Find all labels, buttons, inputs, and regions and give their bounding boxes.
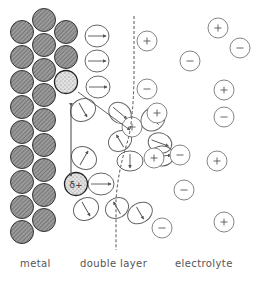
- metal-atom: [11, 46, 34, 69]
- water-dipole: [85, 50, 109, 72]
- metal-label: metal: [20, 258, 51, 269]
- dipole-arrow-icon: [113, 107, 127, 119]
- anion: [174, 180, 194, 200]
- metal-atom: [33, 34, 56, 57]
- metal-atom: [55, 21, 78, 44]
- anion: [170, 145, 190, 165]
- electric-double-layer-diagram: δ+: [0, 0, 264, 288]
- electrolyte-label: electrolyte: [175, 258, 233, 269]
- adsorbed-ion: [55, 71, 78, 94]
- metal-atom: [33, 84, 56, 107]
- cation: [122, 117, 142, 137]
- cation: [214, 80, 234, 100]
- dipole-arrow-icon: [80, 151, 88, 165]
- double-layer-label: double layer: [80, 258, 147, 269]
- water-dipole: [88, 173, 114, 195]
- metal-atom: [11, 146, 34, 169]
- metal-atom: [33, 209, 56, 232]
- cation: [207, 151, 227, 171]
- cation: [144, 148, 164, 168]
- cation: [214, 212, 234, 232]
- anion: [152, 218, 172, 238]
- dipole-arrow-icon: [114, 202, 121, 214]
- metal-atom: [11, 71, 34, 94]
- metal-atom: [11, 21, 34, 44]
- electrolyte-ions: [122, 18, 250, 238]
- anion: [230, 38, 250, 58]
- metal-atom: [33, 9, 56, 32]
- adsorbed-ion: δ+: [65, 173, 88, 196]
- metal-atom: [33, 159, 56, 182]
- water-dipole: [85, 25, 109, 47]
- metal-atom: [33, 109, 56, 132]
- water-dipole: [69, 193, 103, 225]
- cation: [147, 103, 167, 123]
- metal-atom: [11, 121, 34, 144]
- metal-atom: [11, 196, 34, 219]
- water-dipole: [86, 76, 110, 98]
- water-dipole: [67, 142, 101, 174]
- anion: [180, 51, 200, 71]
- anion: [214, 107, 234, 127]
- water-dipole: [124, 198, 157, 228]
- metal-atom: [11, 171, 34, 194]
- metal-atoms: [11, 9, 78, 244]
- cation: [208, 18, 228, 38]
- dipole-arrow-icon: [79, 103, 87, 117]
- metal-atom: [33, 134, 56, 157]
- svg-text:δ+: δ+: [69, 180, 82, 190]
- dipole-arrow-icon: [117, 135, 124, 147]
- metal-atom: [11, 96, 34, 119]
- metal-atom: [33, 184, 56, 207]
- field-arrow-icon: [78, 92, 130, 130]
- metal-atom: [33, 59, 56, 82]
- metal-atom: [11, 221, 34, 244]
- water-dipole: [117, 151, 143, 171]
- water-dipoles: [66, 25, 175, 228]
- dipole-arrow-icon: [137, 207, 144, 219]
- metal-atom: [55, 46, 78, 69]
- dipole-arrow-icon: [152, 140, 169, 146]
- dipole-arrow-icon: [82, 202, 90, 216]
- cation: [137, 31, 157, 51]
- anion: [137, 79, 157, 99]
